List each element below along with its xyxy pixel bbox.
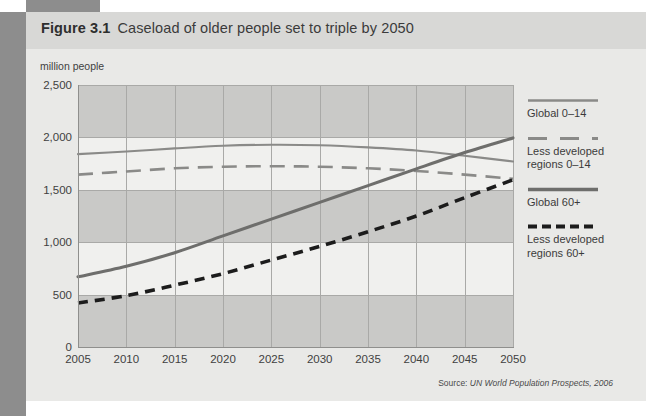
y-axis-ticks: 2,500 2,000 1,500 1,000 500 0 <box>28 85 72 347</box>
plot-area <box>78 85 513 347</box>
source-note: Source: UN World Population Prospects, 2… <box>438 378 613 388</box>
legend-item-global-0-14: Global 0–14 <box>527 92 633 121</box>
x-tick-2005: 2005 <box>65 353 91 365</box>
y-axis-unit-label: million people <box>40 60 104 72</box>
figure-number: Figure 3.1 <box>41 20 111 36</box>
legend-item-global-60-plus: Global 60+ <box>527 181 633 210</box>
legend-label-global-0-14: Global 0–14 <box>527 107 633 121</box>
series-line-less-developed-60-plus <box>78 180 513 303</box>
gridline-2050 <box>513 85 514 347</box>
x-axis-line <box>78 347 514 348</box>
y-tick-0: 0 <box>66 341 72 353</box>
x-tick-2025: 2025 <box>259 353 285 365</box>
legend-swatch-global-0-14 <box>527 92 633 103</box>
x-tick-2045: 2045 <box>452 353 478 365</box>
legend-label-global-60-plus: Global 60+ <box>527 196 633 210</box>
panel-bottom-margin <box>26 401 646 416</box>
page-edge-top-strip <box>26 0 100 12</box>
y-tick-500: 500 <box>53 289 72 301</box>
x-tick-2050: 2050 <box>500 353 526 365</box>
y-tick-1000: 1,000 <box>43 236 72 248</box>
source-prefix: Source: <box>438 378 467 388</box>
x-tick-2030: 2030 <box>307 353 333 365</box>
legend-label-less-developed-60-plus: Less developed regions 60+ <box>527 233 633 260</box>
legend-swatch-less-developed-60-plus <box>527 218 633 229</box>
page-edge-strip <box>0 12 26 416</box>
series-line-global-60-plus <box>78 138 513 277</box>
y-tick-2000: 2,000 <box>43 131 72 143</box>
source-text: UN World Population Prospects, 2006 <box>470 378 613 388</box>
y-tick-2500: 2,500 <box>43 79 72 91</box>
x-tick-2020: 2020 <box>210 353 236 365</box>
x-tick-2015: 2015 <box>162 353 188 365</box>
legend-item-less-developed-0-14: Less developed regions 0–14 <box>527 130 633 172</box>
legend-swatch-less-developed-0-14 <box>527 130 633 141</box>
x-tick-2035: 2035 <box>355 353 381 365</box>
legend-item-less-developed-60-plus: Less developed regions 60+ <box>527 218 633 260</box>
y-axis-line <box>78 85 79 348</box>
legend-swatch-global-60-plus <box>527 181 633 192</box>
legend-label-less-developed-0-14: Less developed regions 0–14 <box>527 145 633 172</box>
figure-root: Figure 3.1Caseload of older people set t… <box>0 0 646 416</box>
page-title: Figure 3.1Caseload of older people set t… <box>41 20 414 36</box>
series-layer <box>78 85 513 347</box>
x-tick-2010: 2010 <box>114 353 140 365</box>
figure-title-text: Caseload of older people set to triple b… <box>118 20 414 36</box>
chart-legend: Global 0–14 Less developed regions 0–14 … <box>527 92 633 269</box>
x-axis-ticks: 2005 2010 2015 2020 2025 2030 2035 2040 … <box>78 353 513 371</box>
x-tick-2040: 2040 <box>404 353 430 365</box>
y-tick-1500: 1,500 <box>43 184 72 196</box>
series-line-less-developed-0-14 <box>78 166 513 179</box>
